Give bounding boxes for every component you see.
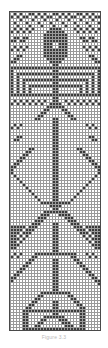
figure-caption: Figure 3.3 xyxy=(0,334,108,341)
pattern-figure: Figure 3.3 xyxy=(0,0,108,348)
pattern-grid-canvas xyxy=(10,12,100,330)
pattern-grid-frame xyxy=(9,11,101,331)
